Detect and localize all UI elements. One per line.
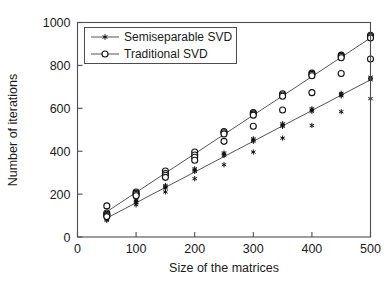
y-tick-label-400: 400 [50,145,71,159]
fit-line-0 [107,80,371,218]
data-point-circle [104,203,110,209]
data-point-circle [250,112,256,118]
x-tick-label-100: 100 [126,242,147,256]
x-tick-label-400: 400 [301,242,322,256]
data-point-circle [309,73,315,79]
fit-line-1 [107,38,371,212]
legend-label-semiseparable: Semiseparable SVD [124,30,232,44]
x-axis-label: Size of the matrices [169,261,279,275]
data-point-circle [280,107,286,113]
data-point-circle [104,214,110,220]
data-point-circle [192,157,198,163]
data-point-circle [250,123,256,129]
y-tick-label-1000: 1000 [43,16,71,30]
x-tick-label-200: 200 [184,242,205,256]
fit-line-group [107,38,371,218]
y-tick-group [78,23,83,238]
data-point-circle [221,131,227,137]
data-point-circle [133,193,139,199]
x-tick-group [78,232,371,237]
data-point-star [339,109,344,114]
data-point-circle [338,55,344,61]
y-axis-label: Number of iterations [6,74,20,187]
data-point-circle [309,90,315,96]
x-tick-label-500: 500 [360,242,381,256]
y-tick-label-600: 600 [50,102,71,116]
data-point-star [163,189,168,194]
y-tick-label-800: 800 [50,59,71,73]
y-tick-label-0: 0 [64,231,71,245]
chart-figure: 010020030040050002004006008001000 Size o… [0,0,392,289]
data-point-circle [280,93,286,99]
x-tick-label-0: 0 [74,242,81,256]
data-point-circle [162,174,168,180]
legend-circle-icon [102,51,108,57]
data-point-star [251,149,256,154]
data-point-star [280,136,285,141]
scatter-plot: 010020030040050002004006008001000 Size o… [0,0,392,289]
data-point-star [310,123,315,128]
y-tick-label-200: 200 [50,188,71,202]
chart-legend: Semiseparable SVD Traditional SVD [85,28,237,64]
legend-label-traditional: Traditional SVD [124,47,208,61]
x-tick-label-300: 300 [243,242,264,256]
data-point-circle [338,71,344,77]
data-point-star [134,202,139,207]
data-point-star [192,176,197,181]
data-point-star [222,162,227,167]
data-point-circle [221,138,227,144]
